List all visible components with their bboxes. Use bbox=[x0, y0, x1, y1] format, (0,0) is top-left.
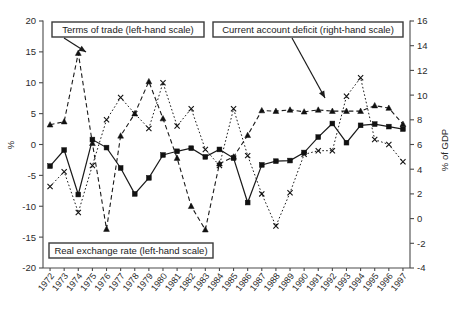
economic-indicators-line-chart: -20-15-10-505101520-4-20246810121416%% o… bbox=[0, 0, 459, 320]
data-point-cross bbox=[400, 159, 405, 164]
left-axis-tick-label: 5 bbox=[31, 108, 36, 119]
data-point-cross bbox=[174, 123, 179, 128]
chart-container: -20-15-10-505101520-4-20246810121416%% o… bbox=[0, 0, 459, 320]
data-point-triangle bbox=[146, 78, 152, 83]
data-point-cross bbox=[189, 106, 194, 111]
left-axis-tick-label: 10 bbox=[25, 77, 36, 88]
series-path bbox=[50, 53, 403, 230]
data-point-square bbox=[372, 122, 377, 127]
data-point-cross bbox=[90, 163, 95, 168]
data-point-square bbox=[146, 175, 151, 180]
data-point-square bbox=[161, 153, 166, 158]
data-point-cross bbox=[245, 153, 250, 158]
callout-label: Current account deficit (right-hand scal… bbox=[222, 24, 394, 35]
callout-terms-of-trade: Terms of trade (left-hand scale) bbox=[52, 22, 204, 52]
left-axis-tick-label: 20 bbox=[25, 15, 36, 26]
data-point-square bbox=[274, 159, 279, 164]
callout-arrow-line bbox=[292, 38, 325, 98]
data-point-triangle bbox=[104, 226, 110, 231]
callout-arrow-head bbox=[78, 46, 86, 52]
right-axis-tick-label: 8 bbox=[417, 114, 422, 125]
left-axis-title: % bbox=[5, 140, 16, 149]
data-point-square bbox=[175, 149, 180, 154]
series-group bbox=[47, 50, 406, 232]
data-point-square bbox=[104, 145, 109, 150]
data-point-cross bbox=[118, 95, 123, 100]
data-point-cross bbox=[62, 169, 67, 174]
data-point-triangle bbox=[174, 155, 180, 160]
data-point-triangle bbox=[160, 115, 166, 120]
series-3 bbox=[47, 75, 405, 228]
left-axis-tick-label: -5 bbox=[28, 170, 36, 181]
right-axis-title: % of GDP bbox=[439, 129, 450, 171]
series-1 bbox=[47, 50, 406, 232]
left-axis-tick-label: -20 bbox=[22, 262, 36, 273]
callout-real-exchange-rate: Real exchange rate (left-hand scale) bbox=[49, 243, 213, 258]
data-point-cross bbox=[231, 106, 236, 111]
data-point-square bbox=[76, 192, 81, 197]
right-axis-tick-label: 14 bbox=[417, 40, 428, 51]
data-point-triangle bbox=[400, 121, 406, 126]
data-point-triangle bbox=[61, 119, 67, 124]
data-point-square bbox=[245, 200, 250, 205]
axes-group: -20-15-10-505101520-4-20246810121416%% o… bbox=[5, 15, 450, 273]
left-axis-tick-label: -10 bbox=[22, 201, 36, 212]
data-point-square bbox=[288, 158, 293, 163]
data-point-cross bbox=[104, 117, 109, 122]
left-axis-tick-label: -15 bbox=[22, 232, 36, 243]
series-path bbox=[50, 78, 403, 226]
right-axis-tick-label: 12 bbox=[417, 65, 428, 76]
data-point-cross bbox=[273, 223, 278, 228]
data-point-cross bbox=[47, 184, 52, 189]
data-point-cross bbox=[287, 190, 292, 195]
data-point-triangle bbox=[315, 107, 321, 112]
data-point-square bbox=[386, 124, 391, 129]
data-point-cross bbox=[160, 80, 165, 85]
left-axis-tick-label: 0 bbox=[31, 139, 36, 150]
data-point-cross bbox=[259, 191, 264, 196]
data-point-triangle bbox=[259, 107, 265, 112]
data-point-triangle bbox=[188, 203, 194, 208]
series-path bbox=[50, 124, 403, 203]
right-axis-tick-label: -4 bbox=[417, 262, 425, 273]
right-axis-tick-label: 6 bbox=[417, 139, 422, 150]
right-axis-tick-label: -2 bbox=[417, 238, 425, 249]
right-axis-tick-label: 16 bbox=[417, 15, 428, 26]
callout-label: Real exchange rate (left-hand scale) bbox=[54, 245, 207, 256]
data-point-cross bbox=[386, 142, 391, 147]
data-point-square bbox=[401, 127, 406, 132]
data-point-square bbox=[344, 140, 349, 145]
data-point-triangle bbox=[245, 132, 251, 137]
data-point-square bbox=[259, 162, 264, 167]
data-point-cross bbox=[344, 94, 349, 99]
x-axis-labels: 1972197319741975197619771978197919801981… bbox=[36, 268, 409, 293]
left-axis-tick-label: 15 bbox=[25, 46, 36, 57]
data-point-triangle bbox=[202, 227, 208, 232]
data-point-square bbox=[217, 147, 222, 152]
data-point-square bbox=[330, 121, 335, 126]
callout-label: Terms of trade (left-hand scale) bbox=[62, 24, 193, 35]
data-point-cross bbox=[76, 210, 81, 215]
data-point-square bbox=[132, 192, 137, 197]
data-point-triangle bbox=[118, 133, 124, 138]
data-point-cross bbox=[203, 147, 208, 152]
right-axis-tick-label: 10 bbox=[417, 90, 428, 101]
callout-current-account-deficit: Current account deficit (right-hand scal… bbox=[213, 22, 403, 98]
data-point-square bbox=[90, 137, 95, 142]
data-point-triangle bbox=[287, 107, 293, 112]
data-point-square bbox=[118, 166, 123, 171]
callouts-group: Terms of trade (left-hand scale)Current … bbox=[49, 22, 403, 258]
series-2 bbox=[48, 121, 406, 205]
data-point-square bbox=[62, 148, 67, 153]
data-point-square bbox=[203, 154, 208, 159]
right-axis-tick-label: 0 bbox=[417, 213, 422, 224]
data-point-square bbox=[358, 123, 363, 128]
right-axis-tick-label: 2 bbox=[417, 188, 422, 199]
data-point-triangle bbox=[372, 102, 378, 107]
data-point-square bbox=[316, 135, 321, 140]
data-point-cross bbox=[146, 126, 151, 131]
data-point-cross bbox=[372, 137, 377, 142]
data-point-square bbox=[231, 156, 236, 161]
right-axis-tick-label: 4 bbox=[417, 164, 422, 175]
data-point-square bbox=[189, 146, 194, 151]
